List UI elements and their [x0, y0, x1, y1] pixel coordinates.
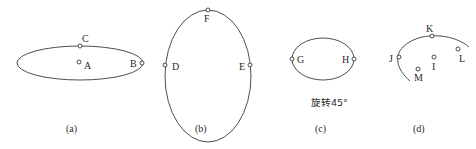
point-l-label: L	[459, 53, 465, 64]
point-c-label: C	[82, 33, 89, 44]
ellipse-b	[165, 10, 251, 142]
point-b-marker	[140, 61, 144, 65]
diagram-canvas: C A B (a) F D E (b) G H 旋转45° (c) J K L	[0, 0, 476, 149]
point-i-marker	[432, 55, 436, 59]
point-k-marker	[430, 34, 434, 38]
point-g-marker	[290, 57, 294, 61]
point-e-marker	[248, 63, 252, 67]
panel-d: J K L I M (d)	[389, 23, 469, 135]
point-a-marker	[77, 60, 81, 64]
point-l-marker	[456, 47, 460, 51]
panel-c-caption: (c)	[315, 123, 326, 135]
panel-c: G H 旋转45° (c)	[290, 38, 356, 135]
panel-a-caption: (a)	[66, 123, 77, 135]
point-e-label: E	[239, 61, 245, 72]
point-i-label: I	[432, 61, 435, 72]
point-j-marker	[397, 55, 401, 59]
point-j-label: J	[389, 53, 393, 64]
panel-b-caption: (b)	[195, 123, 207, 135]
point-f-label: F	[204, 13, 210, 24]
point-g-label: G	[297, 54, 304, 65]
point-c-marker	[78, 44, 82, 48]
point-h-label: H	[342, 54, 349, 65]
point-d-marker	[163, 63, 167, 67]
panel-a: C A B (a)	[17, 33, 144, 135]
point-m-marker	[416, 67, 420, 71]
point-f-marker	[206, 8, 210, 12]
point-b-label: B	[130, 58, 137, 69]
point-a-label: A	[84, 60, 92, 71]
panel-b: F D E (b)	[163, 8, 252, 142]
point-k-label: K	[426, 23, 434, 34]
point-d-label: D	[172, 61, 179, 72]
point-m-label: M	[414, 72, 423, 83]
panel-d-caption: (d)	[413, 123, 425, 135]
point-h-marker	[352, 57, 356, 61]
rotation-note: 旋转45°	[311, 97, 348, 108]
